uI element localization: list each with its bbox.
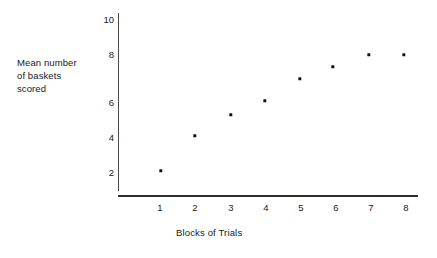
x-axis-title: Blocks of Trials <box>176 227 242 238</box>
y-axis-title: Mean number of baskets scored <box>17 56 109 96</box>
plot-area <box>0 0 437 258</box>
x-tick-label-7: 7 <box>363 203 379 213</box>
y-axis-title-line-2: of baskets <box>17 69 109 82</box>
x-tick-label-6: 6 <box>328 203 344 213</box>
x-tick-label-3: 3 <box>223 203 239 213</box>
data-point-3 <box>229 113 232 116</box>
x-tick-label-1: 1 <box>152 203 168 213</box>
data-point-2 <box>193 134 196 137</box>
y-axis-title-line-3: scored <box>17 82 109 95</box>
y-tick-label-8: 8 <box>92 50 114 60</box>
x-tick-label-4: 4 <box>258 203 274 213</box>
data-point-4 <box>263 99 266 102</box>
y-tick-label-4: 4 <box>92 133 114 143</box>
y-tick-label-6: 6 <box>92 98 114 108</box>
scatter-plot-figure: Mean number of baskets scored 10 8 6 4 2… <box>0 0 437 258</box>
data-point-8 <box>402 53 405 56</box>
data-point-6 <box>331 65 334 68</box>
x-tick-label-2: 2 <box>187 203 203 213</box>
x-tick-label-5: 5 <box>293 203 309 213</box>
data-point-1 <box>159 169 162 172</box>
x-axis-line <box>118 195 418 197</box>
y-tick-label-10: 10 <box>92 15 114 25</box>
x-tick-label-8: 8 <box>398 203 414 213</box>
data-point-5 <box>298 77 301 80</box>
y-tick-label-2: 2 <box>92 168 114 178</box>
y-axis-line <box>118 13 119 191</box>
data-point-7 <box>367 53 370 56</box>
